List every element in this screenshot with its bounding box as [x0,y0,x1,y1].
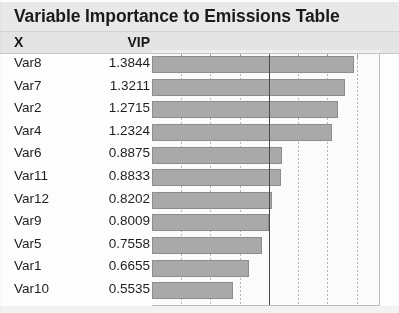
cell-variable-name: Var5 [14,236,42,251]
chart-bar-row [152,257,379,280]
cell-variable-name: Var10 [14,281,49,296]
bar-var4[interactable] [152,124,332,141]
cell-vip-value: 0.8833 [80,168,150,183]
cell-variable-name: Var2 [14,100,42,115]
cell-variable-name: Var12 [14,191,49,206]
cell-variable-name: Var4 [14,123,42,138]
cell-vip-value: 0.8202 [80,191,150,206]
chart-bar-row [152,122,379,145]
cell-variable-name: Var7 [14,78,42,93]
cell-variable-name: Var9 [14,213,42,228]
table-chart-panel: Variable Importance to Emissions Table X… [0,0,399,313]
bar-var9[interactable] [152,214,269,231]
chart-bar-row [152,190,379,213]
reference-line [269,54,270,305]
chart-bars [152,54,379,305]
chart-bar-row [152,54,379,77]
bar-var6[interactable] [152,147,282,164]
vip-bar-chart [152,53,380,306]
cell-variable-name: Var8 [14,55,42,70]
cell-vip-value: 0.6655 [80,258,150,273]
column-header-vip: VIP [90,34,150,50]
chart-bar-row [152,235,379,258]
chart-bar-row [152,99,379,122]
cell-variable-name: Var11 [14,168,48,183]
bar-var10[interactable] [152,282,233,299]
bar-var11[interactable] [152,169,281,186]
chart-bar-row [152,144,379,167]
bar-var2[interactable] [152,101,338,118]
chart-bar-row [152,212,379,235]
chart-bar-row [152,280,379,303]
cell-vip-value: 1.2324 [80,123,150,138]
cell-vip-value: 1.2715 [80,100,150,115]
chart-bar-row [152,77,379,100]
bar-var5[interactable] [152,237,262,254]
cell-vip-value: 0.8009 [80,213,150,228]
column-header-x: X [14,34,23,50]
bar-var8[interactable] [152,56,354,73]
cell-vip-value: 0.5535 [80,281,150,296]
bar-var1[interactable] [152,260,249,277]
panel-title-bar: Variable Importance to Emissions Table [0,2,399,32]
cell-variable-name: Var1 [14,258,42,273]
cell-vip-value: 0.8875 [80,145,150,160]
cell-variable-name: Var6 [14,145,42,160]
chart-bar-row [152,167,379,190]
cell-vip-value: 1.3211 [80,78,150,93]
page-title: Variable Importance to Emissions Table [14,6,340,27]
bar-var7[interactable] [152,79,345,96]
cell-vip-value: 0.7558 [80,236,150,251]
bar-var12[interactable] [152,192,272,209]
cell-vip-value: 1.3844 [80,55,150,70]
panel-bottom-edge [0,306,399,313]
